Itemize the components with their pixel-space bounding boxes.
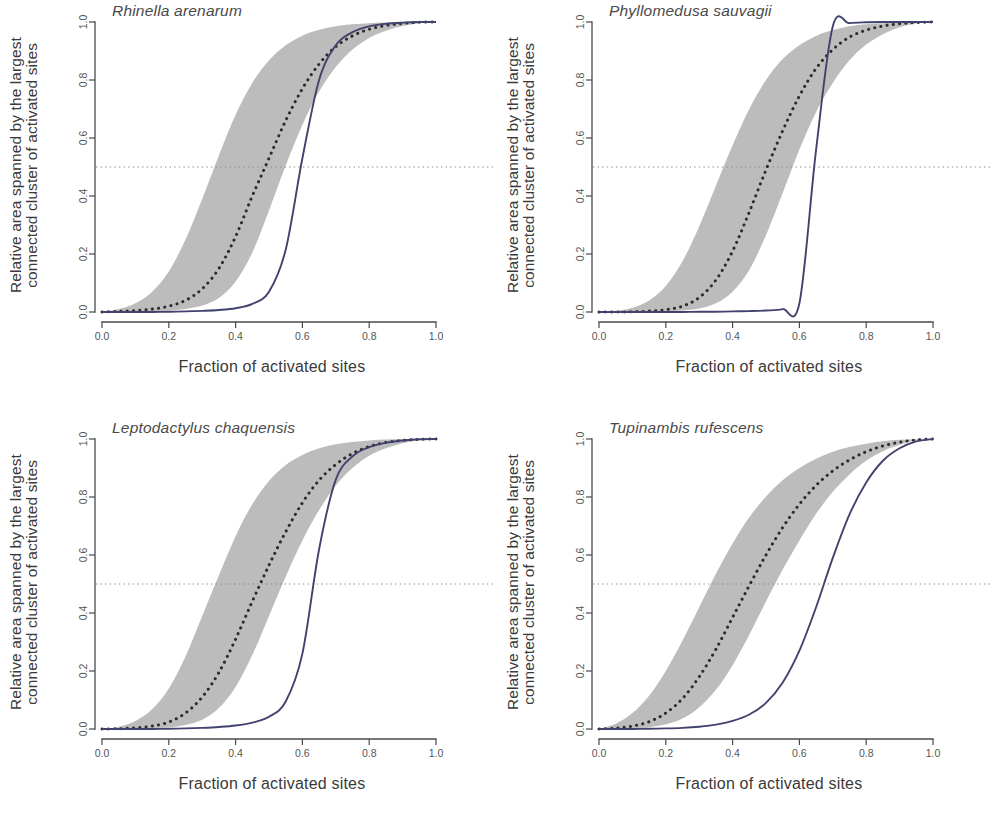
x-axis-label: Fraction of activated sites (599, 775, 939, 793)
y-tick-label: 0.4 (574, 189, 586, 204)
y-tick-label: 0.4 (574, 606, 586, 621)
y-tick-label: 1.0 (574, 432, 586, 447)
plot-canvas: 1.00.80.60.40.20.00.00.20.40.60.81.0 (0, 0, 496, 417)
x-tick-label: 0.6 (792, 330, 807, 342)
y-tick-label: 0.2 (77, 247, 89, 262)
y-tick-label: 0.6 (574, 131, 586, 146)
x-tick-label: 0.4 (228, 330, 243, 342)
panel-leptodactylus-chaquensis: Relative area spanned by the largest con… (0, 417, 496, 834)
plot-canvas: 1.00.80.60.40.20.00.00.20.40.60.81.0 (497, 0, 993, 417)
x-tick-label: 0.4 (725, 747, 740, 759)
x-axis-label: Fraction of activated sites (599, 358, 939, 376)
x-tick-label: 0.6 (295, 330, 310, 342)
y-tick-label: 0.6 (574, 548, 586, 563)
y-tick-label: 0.6 (77, 548, 89, 563)
x-tick-label: 0.0 (592, 747, 607, 759)
x-tick-label: 0.2 (161, 747, 176, 759)
y-tick-label: 0.2 (574, 247, 586, 262)
y-tick-label: 0.0 (574, 305, 586, 320)
plot-canvas: 1.00.80.60.40.20.00.00.20.40.60.81.0 (497, 417, 993, 834)
y-tick-label: 0.8 (574, 490, 586, 505)
y-tick-label: 0.0 (574, 722, 586, 737)
panel-tupinambis-rufescens: Relative area spanned by the largest con… (497, 417, 993, 834)
x-tick-label: 0.2 (658, 747, 673, 759)
y-tick-label: 1.0 (77, 15, 89, 30)
x-tick-label: 0.4 (725, 330, 740, 342)
y-tick-label: 0.8 (77, 490, 89, 505)
x-tick-label: 0.8 (859, 747, 874, 759)
y-tick-label: 0.4 (77, 606, 89, 621)
x-tick-label: 1.0 (429, 747, 444, 759)
y-tick-label: 0.4 (77, 189, 89, 204)
y-tick-label: 0.2 (574, 664, 586, 679)
x-tick-label: 0.8 (362, 330, 377, 342)
x-tick-label: 1.0 (926, 330, 941, 342)
x-tick-label: 0.8 (362, 747, 377, 759)
figure-four-panel-percolation: Relative area spanned by the largest con… (0, 0, 993, 834)
x-tick-label: 0.2 (658, 330, 673, 342)
x-tick-label: 0.0 (95, 330, 110, 342)
x-axis-label: Fraction of activated sites (102, 775, 442, 793)
x-axis-label: Fraction of activated sites (102, 358, 442, 376)
x-tick-label: 0.0 (592, 330, 607, 342)
y-tick-label: 1.0 (574, 15, 586, 30)
y-tick-label: 0.8 (77, 73, 89, 88)
x-tick-label: 0.8 (859, 330, 874, 342)
y-tick-label: 0.0 (77, 722, 89, 737)
y-tick-label: 0.2 (77, 664, 89, 679)
panel-rhinella-arenarum: Relative area spanned by the largest con… (0, 0, 496, 417)
y-tick-label: 0.8 (574, 73, 586, 88)
y-tick-label: 0.0 (77, 305, 89, 320)
x-tick-label: 1.0 (926, 747, 941, 759)
x-tick-label: 0.6 (792, 747, 807, 759)
x-tick-label: 0.6 (295, 747, 310, 759)
x-tick-label: 0.4 (228, 747, 243, 759)
x-tick-label: 0.0 (95, 747, 110, 759)
y-tick-label: 0.6 (77, 131, 89, 146)
x-tick-label: 1.0 (429, 330, 444, 342)
y-tick-label: 1.0 (77, 432, 89, 447)
x-tick-label: 0.2 (161, 330, 176, 342)
panel-phyllomedusa-sauvagii: Relative area spanned by the largest con… (497, 0, 993, 417)
plot-canvas: 1.00.80.60.40.20.00.00.20.40.60.81.0 (0, 417, 496, 834)
